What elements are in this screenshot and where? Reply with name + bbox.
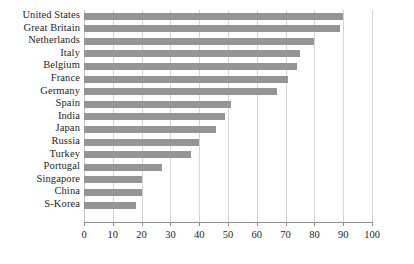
category-label: Spain xyxy=(0,97,80,110)
category-label: France xyxy=(0,72,80,85)
bar xyxy=(84,50,300,57)
category-label: China xyxy=(0,185,80,198)
tickmark-100 xyxy=(372,222,373,226)
x-tick-label: 100 xyxy=(352,228,392,242)
tickmark-10 xyxy=(113,222,114,226)
tickmark-40 xyxy=(199,222,200,226)
category-label: Portugal xyxy=(0,160,80,173)
bars-group xyxy=(84,10,372,222)
bar-row xyxy=(84,98,372,111)
category-label: India xyxy=(0,110,80,123)
category-label: Turkey xyxy=(0,148,80,161)
y-axis-category-labels: United StatesGreat BritainNetherlandsIta… xyxy=(0,10,80,222)
bar xyxy=(84,202,136,209)
bar-row xyxy=(84,60,372,73)
bar-row xyxy=(84,174,372,187)
bar-row xyxy=(84,186,372,199)
bar xyxy=(84,139,199,146)
tickmark-30 xyxy=(170,222,171,226)
bar-row xyxy=(84,149,372,162)
gridline-100 xyxy=(372,10,373,222)
bar-row xyxy=(84,23,372,36)
bar-row xyxy=(84,73,372,86)
bar-row xyxy=(84,111,372,124)
bar xyxy=(84,189,142,196)
bar-row xyxy=(84,48,372,61)
bar-row xyxy=(84,123,372,136)
bar-chart: United StatesGreat BritainNetherlandsIta… xyxy=(0,0,414,264)
bar-row xyxy=(84,136,372,149)
bar-row xyxy=(84,161,372,174)
bar xyxy=(84,76,288,83)
category-label: Japan xyxy=(0,122,80,135)
bar-row xyxy=(84,35,372,48)
bar xyxy=(84,38,314,45)
category-label: Great Britain xyxy=(0,22,80,35)
bar xyxy=(84,63,297,70)
bar xyxy=(84,126,216,133)
bar xyxy=(84,176,142,183)
category-label: Russia xyxy=(0,135,80,148)
category-label: United States xyxy=(0,9,80,22)
tickmark-90 xyxy=(343,222,344,226)
tickmark-20 xyxy=(142,222,143,226)
bar xyxy=(84,13,343,20)
bar-row xyxy=(84,199,372,212)
category-label: Netherlands xyxy=(0,34,80,47)
tickmark-0 xyxy=(84,222,85,226)
x-axis-tick-labels: 0102030405060708090100 xyxy=(0,228,414,244)
bar xyxy=(84,164,162,171)
bar-row xyxy=(84,86,372,99)
category-label: S-Korea xyxy=(0,198,80,211)
tickmark-80 xyxy=(314,222,315,226)
tickmark-70 xyxy=(286,222,287,226)
tickmark-60 xyxy=(257,222,258,226)
category-label: Belgium xyxy=(0,59,80,72)
bar xyxy=(84,88,277,95)
bar xyxy=(84,101,231,108)
category-label: Italy xyxy=(0,47,80,60)
category-label: Singapore xyxy=(0,173,80,186)
bar-row xyxy=(84,10,372,23)
bar xyxy=(84,151,191,158)
tickmark-50 xyxy=(228,222,229,226)
category-label: Germany xyxy=(0,85,80,98)
bar xyxy=(84,25,340,32)
bar xyxy=(84,113,225,120)
